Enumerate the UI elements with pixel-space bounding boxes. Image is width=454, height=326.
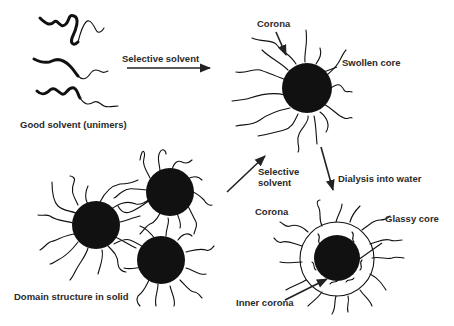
domain-core-bottom [137,236,185,284]
inner-corona-pointer-arrow [285,279,327,300]
unimer-chains [34,16,118,107]
arrow-dialysis [321,147,333,190]
selective-solvent-top-label: Selective solvent [122,53,200,64]
domain-core-top-right [146,168,194,216]
dialysis-label: Dialysis into water [338,173,422,184]
domain-core-left [72,201,120,249]
good-solvent-label: Good solvent (unimers) [20,119,127,130]
corona-bottom-label: Corona [255,206,289,217]
selective-solvent-mid-label-1: Selective [258,166,299,177]
domain-structure-label: Domain structure in solid [14,291,129,302]
glassy-core [314,235,360,281]
inner-corona-label: Inner corona [236,297,294,308]
corona-pointer-arrow [276,32,286,55]
domain-structure-solid [38,150,214,306]
glassy-core-label: Glassy core [385,213,439,224]
swollen-core [282,63,332,113]
corona-top-label: Corona [257,18,291,29]
swollen-core-label: Swollen core [342,57,401,68]
swollen-core-micelle [232,30,352,152]
micelle-formation-diagram: Good solvent (unimers) Selective solvent… [0,0,454,326]
selective-solvent-mid-label-2: solvent [258,177,292,188]
